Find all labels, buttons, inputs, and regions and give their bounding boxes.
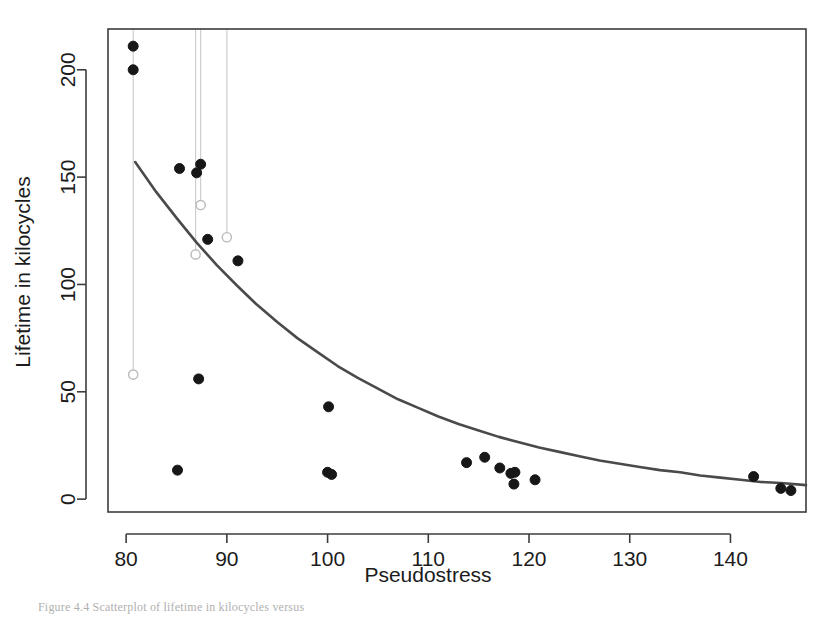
figure-container: 8090100110120130140 050100150200 Pseudos… [0,0,836,617]
x-tick-label-100: 100 [310,547,345,570]
data-point-4 [196,159,206,169]
data-point-2 [175,164,185,174]
data-point-18 [530,475,540,485]
y-tick-label-200: 200 [57,52,80,87]
x-tick-label-130: 130 [612,547,647,570]
data-point-16 [510,467,520,477]
data-point-1 [128,65,138,75]
data-point-14 [495,463,505,473]
y-tick-label-0: 0 [57,493,80,505]
data-point-8 [194,374,204,384]
data-point-11 [327,469,337,479]
figure-caption: Figure 4.4 Scatterplot of lifetime in ki… [38,600,798,616]
open-data-point-0 [129,370,138,379]
data-point-7 [173,465,183,475]
data-point-5 [203,234,213,244]
data-point-9 [324,402,334,412]
data-point-21 [786,486,796,496]
y-axis-title: Lifetime in kilocycles [11,176,34,367]
scatter-plot: 8090100110120130140 050100150200 Pseudos… [0,0,836,617]
x-tick-label-120: 120 [511,547,546,570]
x-axis-title: Pseudostress [364,563,491,586]
data-point-17 [509,479,519,489]
open-data-point-3 [222,233,231,242]
y-tick-label-50: 50 [57,380,80,403]
data-point-19 [749,472,759,482]
open-data-point-1 [191,250,200,259]
y-tick-label-150: 150 [57,160,80,195]
data-point-20 [776,483,786,493]
x-tick-label-80: 80 [114,547,137,570]
plot-background [0,0,836,617]
x-tick-label-140: 140 [713,547,748,570]
data-point-6 [233,256,243,266]
open-data-point-2 [196,200,205,209]
data-point-0 [128,41,138,51]
y-tick-label-100: 100 [57,267,80,302]
x-tick-label-90: 90 [215,547,238,570]
data-point-13 [480,452,490,462]
data-point-12 [462,458,472,468]
